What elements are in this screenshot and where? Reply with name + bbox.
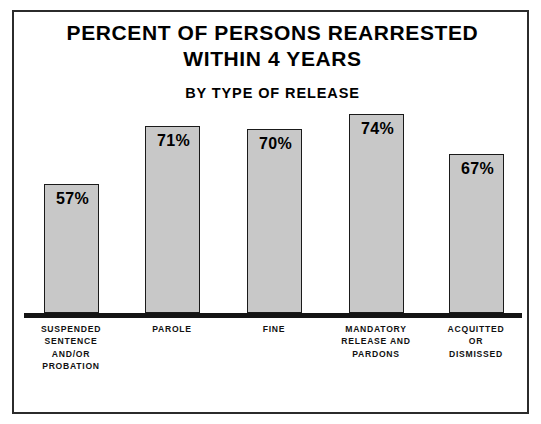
category-label-line: FINE	[219, 323, 329, 335]
bar-value-label: 70%	[248, 135, 303, 153]
category-label-line: AND/OR	[16, 348, 126, 360]
category-label-fine: FINE	[219, 323, 329, 335]
category-label-line: DISMISSED	[421, 348, 531, 360]
bar-group-mandatory-release: 74%	[349, 114, 404, 313]
bar-group-parole: 71%	[145, 126, 200, 313]
category-label-suspended-sentence: SUSPENDED SENTENCE AND/OR PROBATION	[16, 323, 126, 373]
bar-rect[interactable]: 71%	[145, 126, 200, 313]
bar-value-label: 74%	[350, 120, 405, 138]
category-label-line: OR	[421, 335, 531, 347]
bar-group-acquitted-dismissed: 67%	[449, 154, 504, 313]
bar-group-suspended-sentence: 57%	[44, 184, 99, 313]
plot-area: 57% 71% 70% 74%	[14, 12, 531, 416]
bar-value-label: 71%	[146, 132, 201, 150]
bar-group-fine: 70%	[247, 129, 302, 313]
category-label-parole: PAROLE	[117, 323, 227, 335]
category-label-line: PAROLE	[117, 323, 227, 335]
category-label-line: SENTENCE	[16, 335, 126, 347]
category-label-line: PROBATION	[16, 360, 126, 372]
category-label-line: MANDATORY	[321, 323, 431, 335]
bar-rect[interactable]: 70%	[247, 129, 302, 313]
bar-rect[interactable]: 67%	[449, 154, 504, 313]
bar-rect[interactable]: 57%	[44, 184, 99, 313]
category-label-line: SUSPENDED	[16, 323, 126, 335]
bar-rect[interactable]: 74%	[349, 114, 404, 313]
category-label-acquitted-dismissed: ACQUITTED OR DISMISSED	[421, 323, 531, 360]
category-label-line: RELEASE AND	[321, 335, 431, 347]
bar-value-label: 57%	[45, 190, 100, 208]
chart-frame-border: PERCENT OF PERSONS REARRESTED WITHIN 4 Y…	[12, 10, 529, 414]
category-label-line: ACQUITTED	[421, 323, 531, 335]
category-label-mandatory-release: MANDATORY RELEASE AND PARDONS	[321, 323, 431, 360]
bar-value-label: 67%	[450, 160, 505, 178]
category-label-line: PARDONS	[321, 348, 431, 360]
axis-baseline	[24, 313, 522, 318]
chart-figure: PERCENT OF PERSONS REARRESTED WITHIN 4 Y…	[0, 0, 541, 424]
